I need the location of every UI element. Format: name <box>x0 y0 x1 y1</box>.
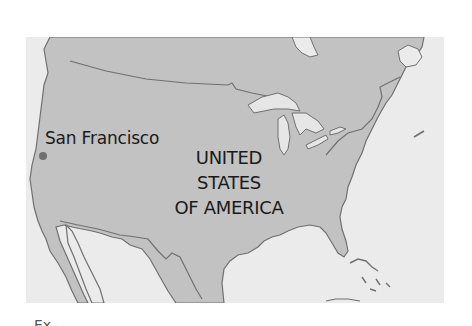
country-label-line: OF AMERICA <box>150 195 308 220</box>
city-label-san-francisco: San Francisco <box>45 128 159 148</box>
san-francisco-marker-icon[interactable] <box>39 152 47 160</box>
country-label-line: UNITED <box>150 145 308 170</box>
footer-partial-text: Ex <box>34 318 51 326</box>
country-label-usa: UNITED STATES OF AMERICA <box>150 145 308 220</box>
country-label-line: STATES <box>150 170 308 195</box>
